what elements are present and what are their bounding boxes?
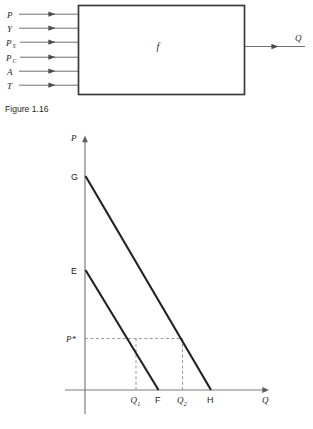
input-row-tastes: T xyxy=(7,81,78,91)
x-axis-arrowhead xyxy=(262,387,269,393)
function-box xyxy=(79,6,245,95)
input-label-advertising: A xyxy=(6,67,13,77)
point-label-price-star: P* xyxy=(65,334,76,344)
output-label-quantity: Q xyxy=(295,33,302,43)
figure-canvas: P Y P S P C xyxy=(0,0,313,429)
input-row-price-complements: P C xyxy=(5,53,78,65)
input-label-price-complements: P xyxy=(5,53,12,63)
demand-curve-gh xyxy=(86,176,212,390)
x-tick-label-quantity-2-subscript: 2 xyxy=(184,400,187,407)
input-row-income: Y xyxy=(7,24,78,34)
x-tick-label-f: F xyxy=(155,395,161,405)
input-row-price-substitutes: P S xyxy=(5,38,78,50)
demand-curve-ef xyxy=(86,270,159,390)
x-tick-quantity-1: Q 1 xyxy=(131,395,141,407)
input-label-tastes: T xyxy=(7,81,13,91)
point-label-e: E xyxy=(71,266,77,276)
y-axis-arrowhead xyxy=(82,136,88,143)
input-row-price: P xyxy=(6,10,78,20)
x-axis-label: Q xyxy=(262,395,269,405)
demand-chart: P Q G E P* Q 1 F xyxy=(65,133,269,414)
input-row-advertising: A xyxy=(6,67,78,77)
input-label-income: Y xyxy=(7,24,13,34)
x-tick-quantity-2: Q 2 xyxy=(177,395,187,407)
blackbox-diagram: P Y P S P C xyxy=(5,6,305,115)
point-label-g: G xyxy=(71,172,78,182)
figure-caption: Figure 1.16 xyxy=(5,104,49,114)
input-label-price-substitutes: P xyxy=(5,38,12,48)
x-tick-label-quantity-1-subscript: 1 xyxy=(137,400,140,407)
input-label-price-substitutes-subscript: S xyxy=(12,42,15,49)
input-label-price-complements-subscript: C xyxy=(12,57,17,64)
x-tick-label-h: H xyxy=(207,395,214,405)
y-axis-label: P xyxy=(70,133,77,143)
input-label-price: P xyxy=(6,10,13,20)
figure-page: P Y P S P C xyxy=(0,0,313,429)
output-row-quantity: Q xyxy=(245,33,305,47)
